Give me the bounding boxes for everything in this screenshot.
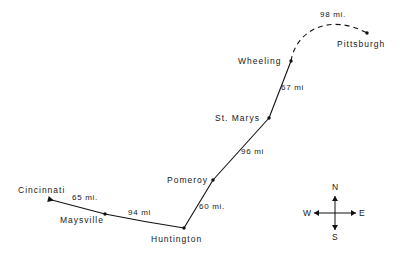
city-label-pittsburgh: Pittsburgh <box>337 40 385 49</box>
distance-label-stmarys-wheeling: 67 mi <box>281 84 304 92</box>
compass-label-south: S <box>332 233 338 242</box>
city-label-huntington: Huntington <box>151 235 202 244</box>
city-label-wheeling: Wheeling <box>238 57 281 66</box>
compass-label-east: E <box>359 209 365 218</box>
city-dot-stmarys <box>267 116 270 119</box>
route-map: Cincinnati Maysville Huntington Pomeroy … <box>0 0 401 256</box>
distance-label-pomeroy-stmarys: 96 mi <box>241 148 264 156</box>
city-dot-pittsburgh <box>365 31 368 34</box>
city-dot-pomeroy <box>211 178 214 181</box>
distance-label-cincinnati-maysville: 65 mi. <box>72 194 98 202</box>
distance-label-maysville-huntington: 94 mi <box>128 209 151 217</box>
distance-label-huntington-pomeroy: 60 mi. <box>199 203 225 211</box>
compass-label-north: N <box>332 183 339 192</box>
city-dot-wheeling <box>289 59 292 62</box>
compass-rose <box>314 196 356 230</box>
compass-label-west: W <box>303 209 312 218</box>
city-label-st-marys: St. Marys <box>215 114 260 123</box>
distance-label-wheeling-pittsburgh: 98 mi. <box>320 11 346 19</box>
city-label-pomeroy: Pomeroy <box>167 176 208 185</box>
city-label-cincinnati: Cincinnati <box>18 186 65 195</box>
city-label-maysville: Maysville <box>60 216 104 225</box>
city-dot-huntington <box>182 226 185 229</box>
